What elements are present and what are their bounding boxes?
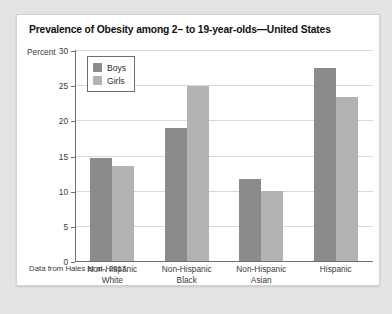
y-axis-tick-label: 10 — [59, 187, 68, 197]
legend-label: Boys — [107, 63, 126, 73]
legend-swatch-icon — [93, 63, 102, 72]
chart-legend: BoysGirls — [87, 56, 135, 92]
tick-mark — [71, 157, 75, 158]
y-axis-tick-label: 20 — [59, 116, 68, 126]
tick-mark — [71, 227, 75, 228]
figure-card: Prevalence of Obesity among 2– to 19-yea… — [16, 14, 380, 286]
bar-girls — [112, 166, 134, 261]
bar-girls — [261, 191, 283, 261]
y-axis-tick-label: 5 — [63, 222, 68, 232]
legend-item-boys: Boys — [93, 61, 126, 74]
x-axis-label-line: Asian — [211, 275, 311, 286]
tick-mark — [71, 192, 75, 193]
bar-boys — [165, 128, 187, 261]
x-axis-line — [75, 261, 373, 262]
bar-boys — [314, 68, 336, 261]
y-axis-tick-label: 30 — [59, 46, 68, 56]
bar-group — [314, 50, 358, 261]
bar-group — [165, 50, 209, 261]
y-axis-title: Percent — [27, 47, 56, 57]
source-note: Data from Hales et al., 2017. — [29, 264, 128, 273]
tick-mark — [71, 86, 75, 87]
y-axis-tick-label: 25 — [59, 81, 68, 91]
bar-boys — [239, 179, 261, 261]
bar-group — [239, 50, 283, 261]
legend-swatch-icon — [93, 76, 102, 85]
tick-mark — [71, 262, 75, 263]
bar-girls — [187, 86, 209, 261]
legend-label: Girls — [107, 76, 125, 86]
bar-girls — [336, 97, 358, 261]
tick-mark — [71, 51, 75, 52]
bar-boys — [90, 158, 112, 261]
x-axis-tick-label: Hispanic — [286, 264, 386, 275]
y-axis-tick-label: 15 — [59, 152, 68, 162]
tick-mark — [71, 121, 75, 122]
legend-item-girls: Girls — [93, 74, 126, 87]
x-axis-label-line: Hispanic — [286, 264, 386, 275]
chart-title: Prevalence of Obesity among 2– to 19-yea… — [29, 24, 331, 35]
